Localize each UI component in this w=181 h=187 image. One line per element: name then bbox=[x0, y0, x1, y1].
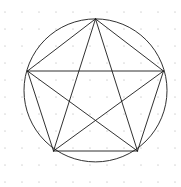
grid-dot bbox=[21, 45, 23, 47]
grid-dot bbox=[55, 164, 57, 166]
grid-dot bbox=[4, 79, 6, 81]
grid-dot bbox=[174, 147, 176, 149]
grid-dot bbox=[55, 113, 57, 115]
grid-dot bbox=[72, 147, 74, 149]
grid-dot bbox=[140, 164, 142, 166]
grid-dot bbox=[38, 147, 40, 149]
grid-dot bbox=[157, 147, 159, 149]
grid-dot bbox=[4, 96, 6, 98]
grid-dot bbox=[174, 96, 176, 98]
grid-dot bbox=[89, 164, 91, 166]
grid-dot bbox=[106, 130, 108, 132]
grid-dot bbox=[21, 79, 23, 81]
grid-dot bbox=[174, 164, 176, 166]
grid-dot bbox=[174, 62, 176, 64]
grid-dot bbox=[89, 79, 91, 81]
grid-dot bbox=[157, 11, 159, 13]
grid-dot bbox=[89, 130, 91, 132]
grid-dot bbox=[89, 113, 91, 115]
grid-dot bbox=[140, 181, 142, 183]
grid-dot bbox=[38, 164, 40, 166]
grid-dot bbox=[106, 62, 108, 64]
grid-dot bbox=[4, 11, 6, 13]
grid-dot bbox=[157, 45, 159, 47]
grid-dot bbox=[174, 11, 176, 13]
grid-dot bbox=[72, 96, 74, 98]
grid-dot bbox=[123, 45, 125, 47]
grid-dot bbox=[123, 79, 125, 81]
grid-dot bbox=[55, 11, 57, 13]
grid-dot bbox=[89, 62, 91, 64]
grid-dot bbox=[55, 45, 57, 47]
grid-dot bbox=[157, 28, 159, 30]
grid-dot bbox=[123, 28, 125, 30]
grid-dot bbox=[21, 11, 23, 13]
grid-dot bbox=[21, 28, 23, 30]
grid-dot bbox=[123, 147, 125, 149]
grid-dot bbox=[21, 164, 23, 166]
grid-dot bbox=[89, 28, 91, 30]
grid-dot bbox=[123, 181, 125, 183]
pentagon-edge-ab bbox=[96, 19, 164, 71]
grid-dot bbox=[4, 28, 6, 30]
grid-dot bbox=[21, 113, 23, 115]
grid-dot bbox=[72, 130, 74, 132]
grid-dot bbox=[89, 147, 91, 149]
grid-dot bbox=[72, 11, 74, 13]
grid-dot bbox=[174, 79, 176, 81]
grid-dot bbox=[38, 130, 40, 132]
grid-dot bbox=[106, 113, 108, 115]
grid-dot bbox=[89, 181, 91, 183]
grid-dot bbox=[140, 96, 142, 98]
pentagram-diagonal-ac bbox=[96, 19, 138, 151]
grid-dot bbox=[4, 181, 6, 183]
grid-dot bbox=[157, 96, 159, 98]
grid-dot bbox=[4, 62, 6, 64]
grid-dot bbox=[174, 181, 176, 183]
grid-dot bbox=[89, 11, 91, 13]
pentagram-diagonals bbox=[28, 19, 164, 151]
grid-dot bbox=[72, 62, 74, 64]
grid-dot bbox=[140, 28, 142, 30]
grid-dot bbox=[55, 62, 57, 64]
grid-dot bbox=[55, 96, 57, 98]
pentagram-diagonal-bd bbox=[54, 71, 164, 151]
grid-dot bbox=[38, 181, 40, 183]
grid-dot bbox=[140, 130, 142, 132]
grid-dot bbox=[106, 147, 108, 149]
grid-dot bbox=[157, 181, 159, 183]
grid-dot bbox=[123, 113, 125, 115]
grid-dot bbox=[140, 79, 142, 81]
grid-dot bbox=[157, 62, 159, 64]
grid-dot bbox=[38, 28, 40, 30]
grid-dot bbox=[106, 11, 108, 13]
grid-dot bbox=[174, 45, 176, 47]
grid-dot bbox=[123, 96, 125, 98]
grid-dot bbox=[174, 113, 176, 115]
pentagon-edge-ea bbox=[28, 19, 96, 71]
grid-dot bbox=[72, 113, 74, 115]
grid-dot bbox=[72, 79, 74, 81]
grid-dot bbox=[21, 96, 23, 98]
grid-dot bbox=[38, 113, 40, 115]
grid-dot bbox=[38, 11, 40, 13]
grid-dot bbox=[157, 164, 159, 166]
grid-dot bbox=[174, 130, 176, 132]
grid-dot bbox=[123, 164, 125, 166]
grid-dot bbox=[89, 45, 91, 47]
grid-dot bbox=[106, 45, 108, 47]
grid-dot bbox=[4, 130, 6, 132]
grid-dot bbox=[140, 45, 142, 47]
grid-dot bbox=[4, 164, 6, 166]
grid-dot bbox=[4, 113, 6, 115]
grid-dot bbox=[140, 113, 142, 115]
grid-dot bbox=[89, 96, 91, 98]
grid-dot bbox=[106, 181, 108, 183]
grid-dot bbox=[157, 79, 159, 81]
grid-dot bbox=[106, 96, 108, 98]
grid-dot bbox=[123, 130, 125, 132]
grid-dot bbox=[21, 147, 23, 149]
grid-dot bbox=[157, 113, 159, 115]
grid-dot bbox=[140, 62, 142, 64]
grid-dot bbox=[72, 28, 74, 30]
